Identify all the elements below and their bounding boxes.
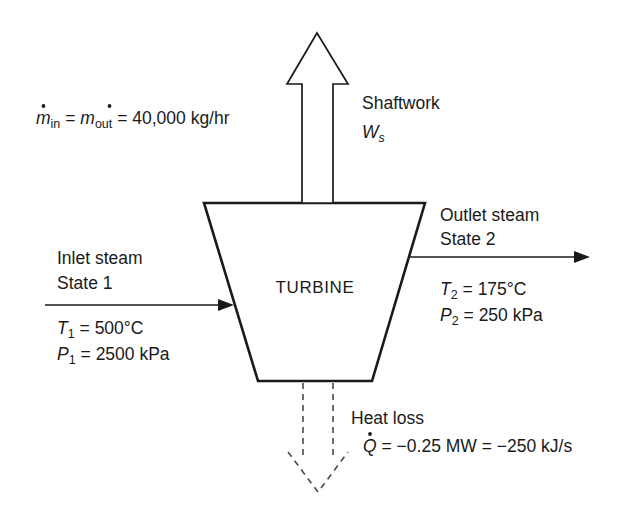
- outlet-temperature: T2 = 175°C: [440, 279, 526, 302]
- inlet-temperature-value: 500°C: [95, 318, 144, 338]
- mass-balance-expression: min = mout = 40,000 kg/hr: [36, 108, 230, 131]
- turbine-diagram-container: TURBINE min = mout = 40,000 kg/hr: [0, 0, 628, 507]
- inlet-pressure-subscript: 1: [69, 353, 76, 367]
- outlet-pressure-subscript: 2: [452, 314, 459, 328]
- outlet-pressure-value: 250 kPa: [479, 305, 543, 325]
- inlet-temperature-equals: =: [80, 318, 90, 338]
- outlet-pressure-equals: =: [464, 305, 474, 325]
- mass-flow-in-subscript: in: [51, 117, 61, 131]
- shaftwork-hollow-arrow-shape: [287, 33, 348, 203]
- heat-loss-value-kjs: −250 kJ/s: [497, 436, 573, 456]
- heat-loss-dashed-arrowhead: [288, 452, 348, 492]
- shaftwork-arrow: [287, 33, 348, 203]
- outlet-temperature-value: 175°C: [478, 279, 527, 299]
- mass-balance-annotation: min = mout = 40,000 kg/hr: [36, 104, 230, 131]
- turbine-process-diagram: TURBINE min = mout = 40,000 kg/hr: [0, 0, 628, 507]
- inlet-flow-arrow: [45, 299, 234, 311]
- outlet-temperature-subscript: 2: [451, 288, 458, 302]
- inlet-pressure-value: 2500 kPa: [96, 344, 170, 364]
- mass-flow-in-symbol: m: [36, 108, 51, 128]
- heat-loss-equals-2: =: [482, 436, 492, 456]
- outlet-pressure: P2 = 250 kPa: [440, 305, 543, 328]
- inlet-stream-label: Inlet steam: [57, 248, 143, 268]
- inlet-arrowhead: [218, 299, 234, 311]
- mass-flow-out-symbol: m: [80, 108, 95, 128]
- inlet-pressure-symbol: P: [57, 344, 69, 364]
- mass-flow-in-overdot: [42, 104, 46, 108]
- shaftwork-symbol: W: [362, 122, 380, 142]
- inlet-annotation: Inlet steam State 1 T1 = 500°C P1 = 2500…: [57, 248, 170, 367]
- heat-loss-annotation: Heat loss Q = −0.25 MW = −250 kJ/s: [351, 408, 572, 456]
- outlet-stream-label: Outlet steam: [440, 205, 539, 225]
- inlet-temperature: T1 = 500°C: [57, 318, 143, 341]
- inlet-state-label: State 1: [57, 273, 112, 293]
- heat-loss-arrow: [288, 383, 348, 492]
- shaftwork-symbol-group: Ws: [362, 122, 385, 145]
- mass-balance-equals-1: =: [65, 108, 75, 128]
- heat-loss-value-mw: −0.25 MW: [397, 436, 478, 456]
- shaftwork-label: Shaftwork: [362, 93, 440, 113]
- outlet-state-label: State 2: [440, 229, 495, 249]
- outlet-temperature-equals: =: [463, 279, 473, 299]
- heat-loss-label: Heat loss: [351, 408, 424, 428]
- shaftwork-annotation: Shaftwork Ws: [362, 93, 440, 145]
- heat-loss-expression: Q = −0.25 MW = −250 kJ/s: [363, 436, 572, 456]
- heat-loss-overdot: [368, 432, 372, 436]
- mass-balance-equals-2: =: [117, 108, 127, 128]
- inlet-temperature-subscript: 1: [68, 327, 75, 341]
- mass-flow-out-overdot: [108, 104, 112, 108]
- outlet-pressure-symbol: P: [440, 305, 452, 325]
- shaftwork-subscript: s: [379, 131, 385, 145]
- inlet-pressure: P1 = 2500 kPa: [57, 344, 170, 367]
- turbine-body-label: TURBINE: [276, 278, 355, 297]
- heat-loss-symbol: Q: [363, 436, 377, 456]
- inlet-pressure-equals: =: [81, 344, 91, 364]
- outlet-arrowhead: [574, 251, 590, 263]
- outlet-annotation: Outlet steam State 2 T2 = 175°C P2 = 250…: [440, 205, 543, 328]
- outlet-flow-arrow: [408, 251, 590, 263]
- mass-balance-value: 40,000 kg/hr: [132, 108, 229, 128]
- heat-loss-equals-1: =: [382, 436, 392, 456]
- mass-flow-out-subscript: out: [95, 117, 113, 131]
